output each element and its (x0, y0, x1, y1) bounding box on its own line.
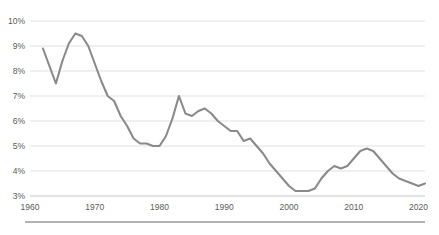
x-tick-label: 2020 (409, 202, 428, 212)
y-tick-label: 4% (13, 166, 26, 176)
y-tick-label: 6% (13, 116, 26, 126)
x-tick-label: 2000 (280, 202, 299, 212)
y-axis-tick-labels: 10%9%8%7%6%5%4%3% (8, 16, 25, 201)
y-tick-label: 10% (8, 16, 25, 26)
x-tick-label: 2010 (344, 202, 363, 212)
y-tick-label: 5% (13, 141, 26, 151)
line-chart-figure: 10%9%8%7%6%5%4%3% 1960197019801990200020… (0, 0, 439, 235)
x-tick-label: 1980 (150, 202, 169, 212)
x-axis-tick-labels: 1960197019801990200020102020 (21, 202, 429, 212)
y-tick-label: 9% (13, 41, 26, 51)
y-tick-label: 8% (13, 66, 26, 76)
x-tick-label: 1990 (215, 202, 234, 212)
y-tick-label: 3% (13, 191, 26, 201)
chart-canvas: 10%9%8%7%6%5%4%3% 1960197019801990200020… (0, 0, 439, 235)
data-line-rate (43, 34, 425, 192)
x-tick-label: 1960 (21, 202, 40, 212)
x-tick-label: 1970 (85, 202, 104, 212)
y-tick-label: 7% (13, 91, 26, 101)
